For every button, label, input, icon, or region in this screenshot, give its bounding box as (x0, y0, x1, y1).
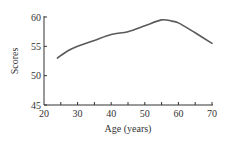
y-tick-label: 55 (31, 41, 41, 52)
x-tick-label: 50 (140, 108, 150, 119)
axes (44, 16, 213, 105)
x-tick-label: 30 (73, 108, 83, 119)
y-tick-label: 50 (31, 70, 41, 81)
y-tick-label: 60 (31, 12, 41, 23)
scores-line (57, 20, 212, 58)
x-tick-label: 40 (106, 108, 116, 119)
x-tick-label: 70 (207, 108, 217, 119)
y-axis-label: Scores (9, 48, 20, 75)
line-chart: 45505560 203040506070 Age (years) Scores (0, 0, 228, 141)
x-tick-label: 20 (39, 108, 49, 119)
x-axis-label: Age (years) (105, 123, 152, 135)
y-axis-ticks: 45505560 (31, 12, 47, 111)
x-tick-label: 60 (173, 108, 183, 119)
